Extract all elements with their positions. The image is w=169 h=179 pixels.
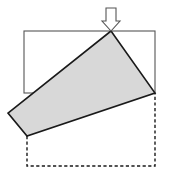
diagram-canvas bbox=[0, 0, 169, 179]
figure-container bbox=[0, 0, 169, 179]
